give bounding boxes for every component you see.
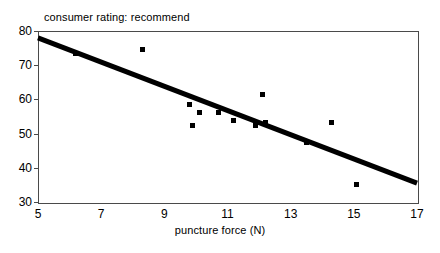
x-tick-label: 7 [86,208,116,220]
data-point [263,120,268,125]
data-point [190,123,195,128]
data-point [231,118,236,123]
y-tick-label: 80 [2,25,32,37]
y-tick-mark [34,168,38,169]
x-tick-label: 13 [276,208,306,220]
data-point [253,123,258,128]
chart-title: consumer rating: recommend [44,11,190,24]
y-tick-label: 40 [2,162,32,174]
y-tick-mark [34,99,38,100]
y-tick-mark [34,31,38,32]
y-tick-mark [34,202,38,203]
plot-svg [38,31,417,202]
x-axis-title: puncture force (N) [0,224,440,237]
x-tick-label: 15 [339,208,369,220]
data-point [197,110,202,115]
data-point [354,182,359,187]
y-tick-mark [34,65,38,66]
x-tick-label: 17 [402,208,432,220]
data-point [329,120,334,125]
data-point [187,102,192,107]
x-tick-label: 9 [149,208,179,220]
y-tick-label: 30 [2,196,32,208]
y-tick-mark [34,134,38,135]
data-point [216,110,221,115]
scatter-chart-figure: consumer rating: recommend 304050607080 … [0,0,440,253]
y-tick-label: 70 [2,59,32,71]
y-tick-label: 50 [2,128,32,140]
x-tick-label: 5 [23,208,53,220]
data-point [140,47,145,52]
data-point [260,92,265,97]
data-point [304,140,309,145]
data-point [73,51,78,56]
y-tick-label: 60 [2,93,32,105]
trendline [38,38,417,183]
x-tick-label: 11 [213,208,243,220]
